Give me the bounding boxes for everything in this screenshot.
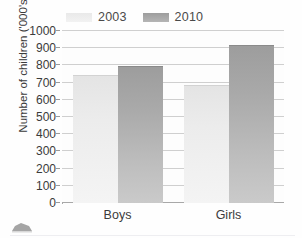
legend-swatch-2003 [66, 13, 92, 22]
y-axis-tick-label: 800 [36, 59, 56, 71]
legend-label-2003: 2003 [98, 11, 127, 24]
scan-artifact-icon [10, 222, 34, 233]
chart-legend: 2003 2010 [66, 8, 246, 26]
bar-boys-2010 [118, 66, 163, 203]
x-axis-tick-label: Girls [216, 208, 242, 222]
y-axis-tick-mark [56, 64, 60, 65]
legend-label-2010: 2010 [175, 11, 204, 24]
y-axis-tick-mark [56, 116, 60, 117]
y-axis-tick-label: 400 [36, 128, 56, 140]
bar-girls-2010 [229, 45, 274, 203]
bar-chart-figure: 2003 2010 Number of children ('000's) 10… [0, 0, 302, 238]
bar-girls-2003 [184, 85, 229, 203]
legend-item-2010: 2010 [143, 11, 204, 24]
y-axis-tick-label: 1000 [29, 25, 56, 37]
y-axis-tick-mark [56, 150, 60, 151]
bar-boys-2003 [73, 75, 118, 203]
plot-area [62, 31, 284, 203]
y-axis-tick-mark [56, 99, 60, 100]
y-axis-tick-mark [56, 47, 60, 48]
y-axis-tick-label: 200 [36, 163, 56, 175]
y-axis-tick-label: 900 [36, 42, 56, 54]
x-axis-tick-label: Boys [104, 208, 132, 222]
y-axis-tick-labels: 10009008007006005004003002001000 [0, 31, 56, 203]
y-axis-tick-label: 0 [49, 197, 56, 209]
y-axis-tick-mark [56, 168, 60, 169]
x-axis-tick-labels: BoysGirls [62, 208, 284, 226]
page-bottom-divider [10, 235, 295, 236]
y-axis-tick-label: 500 [36, 111, 56, 123]
legend-swatch-2010 [143, 13, 169, 22]
y-axis-tick-mark [56, 133, 60, 134]
y-axis-tick-mark [56, 82, 60, 83]
y-axis-tick-mark [56, 30, 60, 31]
legend-item-2003: 2003 [66, 11, 127, 24]
y-axis-tick-label: 300 [36, 145, 56, 157]
y-axis-tick-mark [56, 202, 60, 203]
y-axis-tick-label: 600 [36, 94, 56, 106]
gridline [62, 30, 284, 31]
plot-area-frame [62, 31, 284, 203]
y-axis-tick-mark [56, 185, 60, 186]
y-axis-tick-label: 100 [36, 180, 56, 192]
y-axis-tick-label: 700 [36, 77, 56, 89]
